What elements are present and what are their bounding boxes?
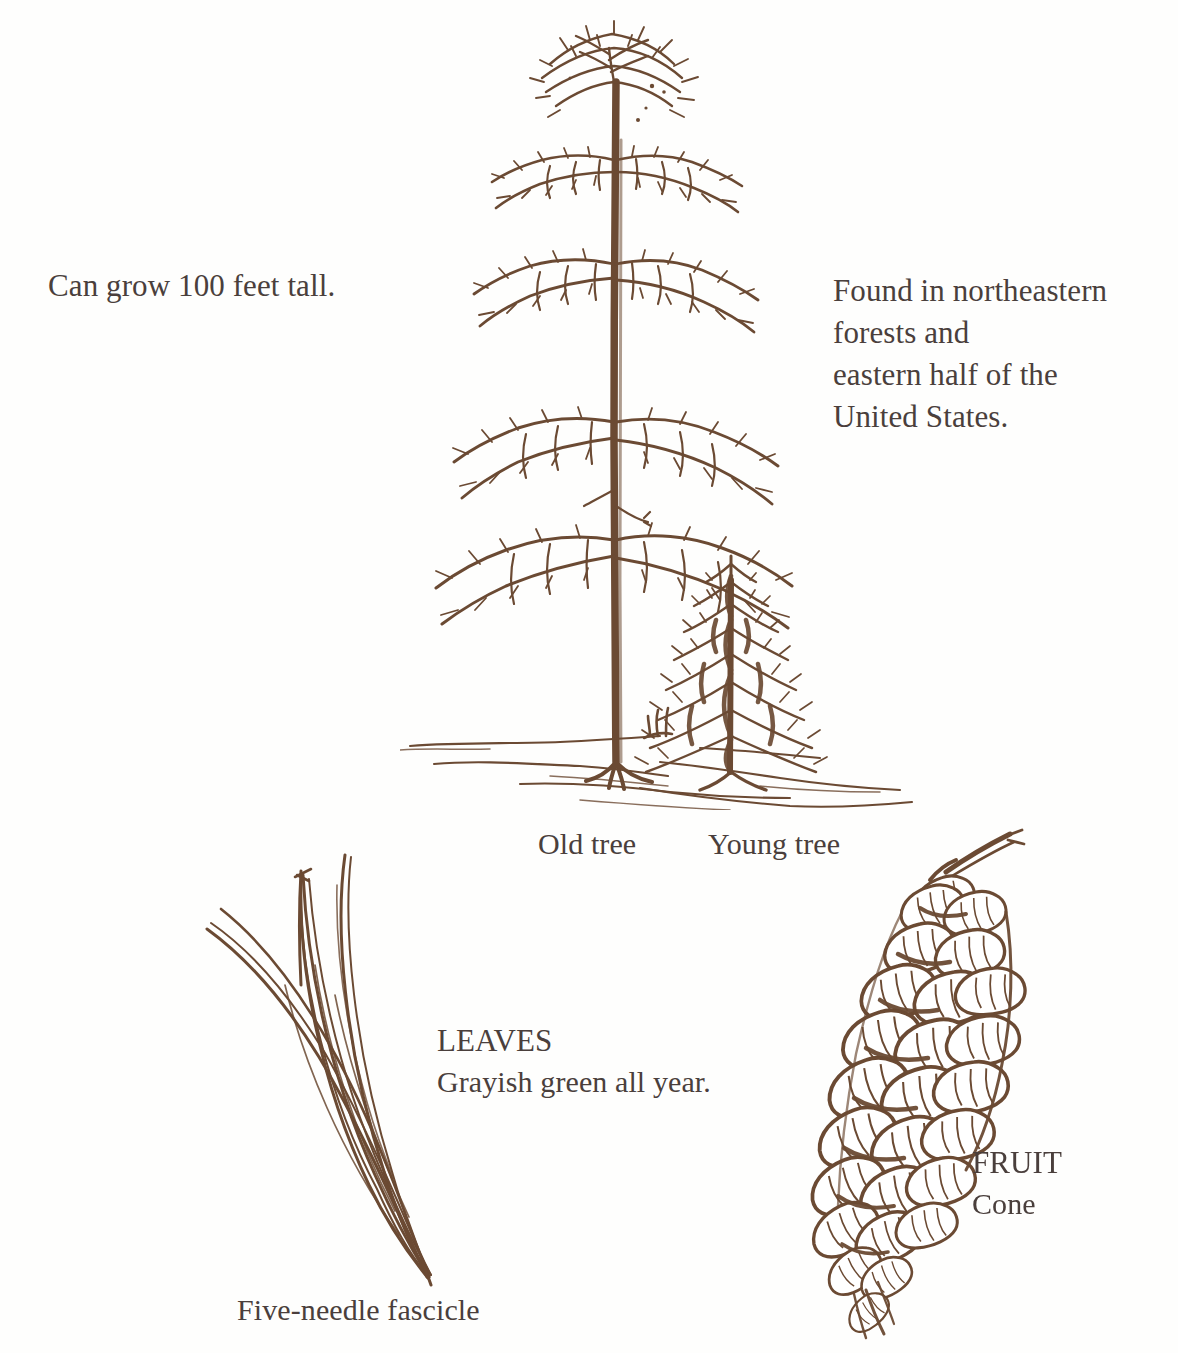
illustration-page: Can grow 100 feet tall. Found in northea…: [0, 0, 1178, 1353]
fruit-description: Cone: [972, 1184, 1036, 1224]
leaves-description: Grayish green all year.: [437, 1062, 711, 1102]
leaves-heading: LEAVES: [437, 1020, 552, 1061]
young-tree-label: Young tree: [708, 824, 840, 864]
height-caption: Can grow 100 feet tall.: [48, 265, 335, 306]
range-caption: Found in northeastern forests and easter…: [833, 270, 1107, 439]
pine-cone-illustration: [770, 820, 1040, 1345]
five-needle-fascicle-illustration: [185, 845, 475, 1290]
fascicle-label: Five-needle fascicle: [237, 1290, 480, 1330]
fruit-heading: FRUIT: [972, 1142, 1062, 1183]
old-tree-label: Old tree: [538, 824, 636, 864]
